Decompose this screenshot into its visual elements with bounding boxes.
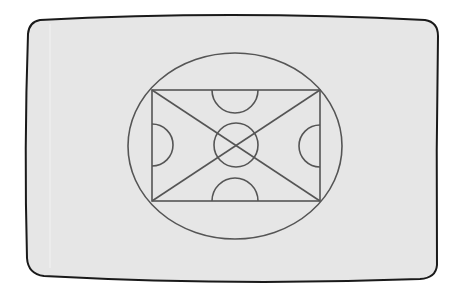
crt-screen-figure bbox=[0, 0, 462, 296]
crt-screen-canvas bbox=[0, 0, 462, 296]
